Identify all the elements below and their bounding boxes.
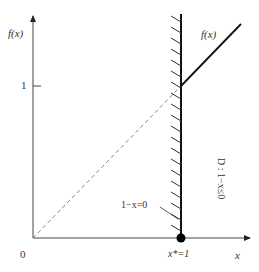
x-star-label: x*=1 <box>168 249 189 259</box>
curve-label: f(x) <box>201 29 216 40</box>
hatch-marks <box>171 16 181 231</box>
optimum-point <box>177 234 186 243</box>
y-tick-label: 1 <box>21 80 27 91</box>
dashed-extension-line <box>33 86 181 238</box>
y-axis-label: f(x) <box>8 28 23 39</box>
constraint-leader-line <box>160 207 178 219</box>
origin-label: 0 <box>20 249 26 260</box>
constraint-label: 1−x=0 <box>121 200 147 210</box>
domain-label: D : 1−x≤0 <box>216 158 226 199</box>
optimization-diagram: f(x) 1 f(x) 1−x=0 0 x*=1 x D : 1−x≤0 <box>0 0 259 272</box>
x-axis-label: x <box>235 250 240 261</box>
diagram-canvas <box>0 0 259 272</box>
